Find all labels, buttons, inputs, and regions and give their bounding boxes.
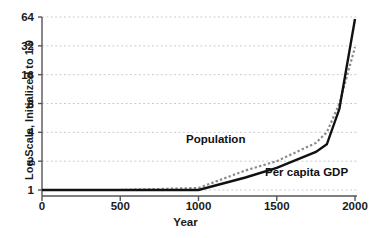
x-tick-label: 500	[111, 200, 130, 212]
series-label-population: Population	[186, 133, 245, 145]
y-axis-title: Log Scale, Initialized to 1.0	[23, 25, 35, 195]
series-label-per-capita-gdp: Per capita GDP	[265, 166, 348, 178]
x-tick-label: 1500	[264, 200, 290, 212]
x-tick-label: 1000	[186, 200, 212, 212]
x-tick-label: 0	[39, 200, 45, 212]
data-series	[42, 19, 355, 190]
x-tick-label: 2000	[342, 200, 368, 212]
series-line-per-capita-gdp	[42, 19, 355, 190]
gridlines	[42, 17, 357, 190]
chart-container: 1248163264 0500100015002000 Log Scale, I…	[0, 0, 371, 238]
x-axis-title: Year	[0, 216, 371, 228]
y-tick-label: 64	[8, 11, 34, 23]
